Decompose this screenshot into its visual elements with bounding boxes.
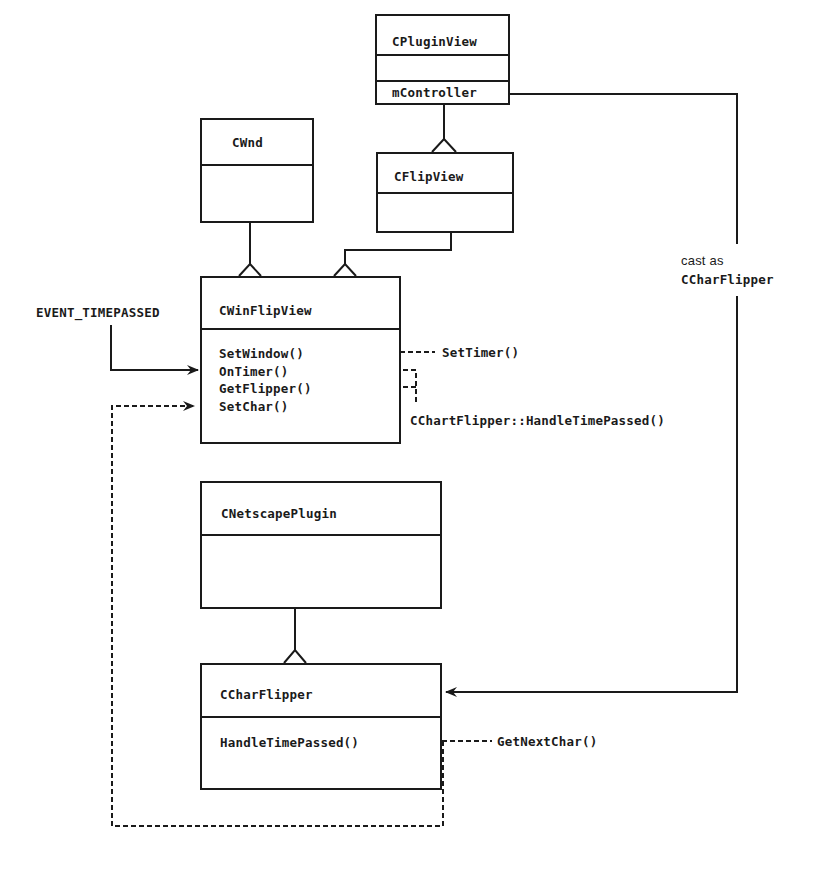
inheritance-line-cflipview2 [345, 232, 451, 264]
class-name-cflipview: CFlipView [394, 169, 464, 184]
member-mcontroller: mController [392, 85, 477, 100]
divider [377, 54, 508, 56]
class-cwnd: CWnd [200, 118, 314, 223]
method-setwindow: SetWindow() [219, 346, 304, 361]
handletimepassed-label: CChartFlipper::HandleTimePassed() [410, 413, 665, 428]
event-arrow [111, 325, 198, 370]
method-ontimer: OnTimer() [219, 364, 289, 379]
class-name-cwinflipview: CWinFlipView [219, 303, 312, 318]
class-name-cwnd: CWnd [232, 135, 263, 150]
method-setchar: SetChar() [219, 399, 289, 414]
cast-as-label: cast as [681, 253, 724, 268]
class-ccharflipper: CCharFlipper HandleTimePassed() [200, 663, 442, 790]
class-name-ccharflipper: CCharFlipper [220, 687, 313, 702]
divider [377, 80, 508, 82]
divider [202, 534, 440, 536]
divider [202, 716, 440, 718]
class-cwinflipview: CWinFlipView SetWindow() OnTimer() GetFl… [200, 276, 401, 444]
inheritance-marker-cwnd [239, 264, 261, 276]
event-timepassed-label: EVENT_TIMEPASSED [36, 305, 160, 320]
inheritance-marker-cnetscape [284, 650, 306, 663]
divider [202, 164, 312, 166]
class-cflipview: CFlipView [376, 152, 514, 233]
getnextchar-label: GetNextChar() [497, 734, 597, 749]
divider [378, 192, 512, 194]
cast-type-label: CCharFlipper [681, 272, 774, 287]
method-getflipper: GetFlipper() [219, 381, 312, 396]
inheritance-marker-cflipview2 [334, 264, 356, 276]
class-cpluginview: CPluginView mController [375, 14, 510, 105]
class-name-cnetscapeplugin: CNetscapePlugin [221, 506, 337, 521]
settimer-label: SetTimer() [442, 345, 519, 360]
reference-line-top [503, 94, 737, 244]
divider [202, 328, 399, 330]
class-cnetscapeplugin: CNetscapePlugin [200, 481, 442, 609]
method-handletimepassed: HandleTimePassed() [220, 735, 359, 750]
class-name-cpluginview: CPluginView [392, 34, 477, 49]
inheritance-marker-cflipview [432, 139, 456, 152]
